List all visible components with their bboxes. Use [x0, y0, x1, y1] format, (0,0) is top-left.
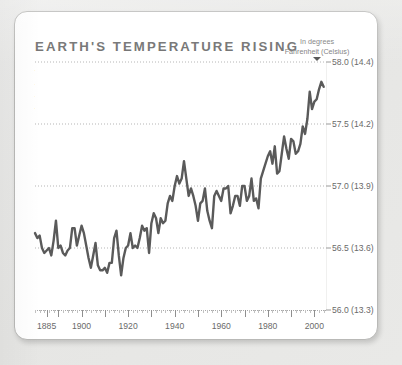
x-axis-minor-tick: [212, 310, 213, 313]
x-axis-minor-tick: [217, 310, 218, 313]
x-axis-minor-tick: [142, 310, 143, 313]
x-axis-minor-tick: [44, 310, 45, 313]
x-axis-minor-tick: [319, 310, 320, 313]
chart-plot-area: [35, 62, 326, 310]
x-axis-minor-tick: [324, 310, 325, 313]
x-axis-minor-tick: [133, 310, 134, 313]
x-axis-major-tick: [128, 310, 129, 317]
y-axis-tick: [326, 310, 331, 311]
x-axis-tick-label: 1920: [119, 321, 138, 331]
y-axis-tick: [326, 186, 331, 187]
x-axis-minor-tick: [189, 310, 190, 313]
infographic-card: EARTH'S TEMPERATURE RISING In degrees Fa…: [14, 11, 378, 340]
x-axis-major-tick: [291, 310, 292, 317]
x-axis-minor-tick: [235, 310, 236, 313]
x-axis-major-tick: [82, 310, 83, 317]
x-axis-minor-tick: [179, 310, 180, 313]
x-axis-minor-tick: [86, 310, 87, 313]
x-axis-minor-tick: [305, 310, 306, 313]
x-axis-minor-tick: [72, 310, 73, 313]
page-title: EARTH'S TEMPERATURE RISING: [35, 39, 299, 54]
x-axis-minor-tick: [231, 310, 232, 313]
x-axis-major-tick: [314, 310, 315, 317]
x-axis-major-tick: [47, 310, 48, 317]
x-axis-minor-tick: [91, 310, 92, 313]
x-axis-minor-tick: [77, 310, 78, 313]
temperature-series-line: [35, 82, 324, 275]
x-axis-minor-tick: [40, 310, 41, 313]
x-axis-minor-tick: [165, 310, 166, 313]
y-axis-labels: 56.0 (13.3)56.5 (13.6)57.0 (13.9)57.5 (1…: [332, 62, 378, 310]
x-axis-minor-tick: [193, 310, 194, 313]
x-axis-minor-tick: [296, 310, 297, 313]
x-axis-minor-tick: [156, 310, 157, 313]
y-axis-tick: [326, 62, 331, 63]
x-axis-minor-tick: [100, 310, 101, 313]
x-axis-minor-tick: [277, 310, 278, 313]
temperature-line-chart: [35, 62, 326, 310]
y-axis-tick-label: 56.0 (13.3): [332, 305, 374, 315]
x-axis-minor-tick: [49, 310, 50, 313]
x-axis-tick-label: 1980: [258, 321, 277, 331]
x-axis-major-tick: [105, 310, 106, 317]
x-axis-minor-tick: [170, 310, 171, 313]
x-axis-minor-tick: [161, 310, 162, 313]
y-axis-tick: [326, 248, 331, 249]
y-axis-tick-label: 58.0 (14.4): [332, 57, 374, 67]
x-axis-minor-tick: [35, 310, 36, 313]
y-axis-tick-label: 57.5 (14.2): [332, 119, 374, 129]
x-axis-major-tick: [198, 310, 199, 317]
y-axis-tick-label: 57.0 (13.9): [332, 181, 374, 191]
x-axis-tick-label: 2000: [305, 321, 324, 331]
x-axis-tick-label: 1960: [212, 321, 231, 331]
x-axis-minor-tick: [68, 310, 69, 313]
caret-down-icon: [313, 57, 321, 61]
x-axis-major-tick: [221, 310, 222, 317]
x-axis-minor-tick: [96, 310, 97, 313]
x-axis-major-tick: [175, 310, 176, 317]
x-axis-minor-tick: [203, 310, 204, 313]
x-axis-minor-tick: [137, 310, 138, 313]
x-axis-tick-label: 1885: [37, 321, 56, 331]
x-axis-major-tick: [268, 310, 269, 317]
y-axis-tick-label: 56.5 (13.6): [332, 243, 374, 253]
y-axis-tick: [326, 124, 331, 125]
x-axis-minor-tick: [119, 310, 120, 313]
x-axis-minor-tick: [249, 310, 250, 313]
x-axis-major-tick: [151, 310, 152, 317]
x-axis-minor-tick: [63, 310, 64, 313]
x-axis-major-tick: [245, 310, 246, 317]
x-axis-minor-tick: [300, 310, 301, 313]
x-axis-minor-tick: [207, 310, 208, 313]
legend-line-2: Fahrenheit (Celsius): [265, 47, 369, 57]
x-axis-minor-tick: [258, 310, 259, 313]
x-axis-minor-tick: [286, 310, 287, 313]
x-axis-minor-tick: [123, 310, 124, 313]
x-axis-minor-tick: [54, 310, 55, 313]
x-axis-major-tick: [58, 310, 59, 317]
x-axis-tick-label: 1900: [72, 321, 91, 331]
x-axis-minor-tick: [263, 310, 264, 313]
x-axis-minor-tick: [272, 310, 273, 313]
x-axis-minor-tick: [184, 310, 185, 313]
screenshot-root: EARTH'S TEMPERATURE RISING In degrees Fa…: [0, 0, 402, 365]
legend-line-1: In degrees: [265, 37, 369, 47]
x-axis: 1885190019201940196019802000: [35, 310, 326, 340]
x-axis-minor-tick: [114, 310, 115, 313]
x-axis-minor-tick: [254, 310, 255, 313]
x-axis-minor-tick: [109, 310, 110, 313]
x-axis-tick-label: 1940: [165, 321, 184, 331]
x-axis-minor-tick: [240, 310, 241, 313]
x-axis-minor-tick: [310, 310, 311, 313]
x-axis-minor-tick: [282, 310, 283, 313]
x-axis-minor-tick: [226, 310, 227, 313]
x-axis-minor-tick: [147, 310, 148, 313]
